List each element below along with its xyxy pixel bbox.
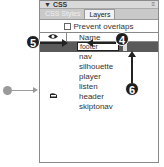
layer-name: skiptonav [67,102,119,112]
arrowhead-icon [62,39,68,47]
layers-table-header: Name Z [40,32,158,42]
callout-6: 6 [125,82,139,96]
panel-title: CSS [53,1,67,8]
layer-name: listen [67,82,119,92]
tab-css-styles[interactable]: CSS Styles [41,9,84,19]
prevent-overlaps-checkbox[interactable] [64,23,71,30]
layer-row[interactable]: listen [40,82,158,92]
tab-layers[interactable]: Layers [84,9,115,19]
layer-name: nav [67,52,119,62]
callout-6-arrow [131,56,133,83]
panel-menu-icon[interactable]: ≡ [151,1,155,8]
layer-row[interactable]: skiptonav [40,102,158,112]
layer-row[interactable]: player [40,72,158,82]
column-name-header[interactable]: Name [67,33,119,41]
layer-row[interactable]: nav [40,52,158,62]
layer-name: player [67,72,119,82]
arrowhead-icon [87,39,93,47]
layer-name: silhouette [67,62,119,72]
prevent-overlaps-option[interactable]: Prevent overlaps [40,20,158,32]
panel-tabs: CSS Styles Layers [40,9,158,20]
panel-header[interactable]: ▼ CSS ≡ [40,1,158,9]
callout-4: 4 [115,32,129,46]
closed-eye-icon[interactable] [40,92,67,102]
prevent-overlaps-label: Prevent overlaps [73,22,133,31]
layer-name: header [67,92,119,102]
layer-row[interactable]: silhouette [40,62,158,72]
callout-4-arrow [92,42,116,44]
pointer-line [11,90,35,91]
collapse-icon[interactable]: ▼ [44,1,51,8]
callout-5: 5 [26,35,40,49]
arrowhead-icon [128,51,136,57]
pointer-arrowhead-icon [33,87,38,93]
layers-panel: ▼ CSS ≡ CSS Styles Layers Prevent overla… [39,0,159,163]
callout-5-arrow [40,42,64,44]
layer-row[interactable]: header [40,92,158,102]
